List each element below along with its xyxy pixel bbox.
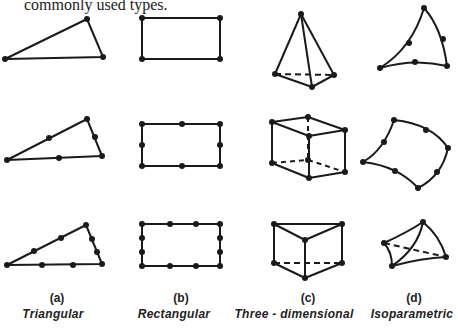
column-a-name: Triangular <box>22 307 83 321</box>
isoparametric-quadrilateral <box>363 120 448 188</box>
column-b-letter: (b) <box>173 291 188 305</box>
hexahedron <box>272 117 345 178</box>
rectangle-linear <box>142 18 220 59</box>
triangle-cubic <box>7 225 102 265</box>
triangular-prism <box>274 224 342 278</box>
isoparametric-tetrahedron <box>384 222 446 266</box>
finite-element-figure <box>0 0 458 328</box>
column-b-name: Rectangular <box>138 307 211 321</box>
column-d-name: Isoparametric <box>371 307 454 321</box>
triangle-quadratic <box>7 119 102 160</box>
column-c-letter: (c) <box>301 291 316 305</box>
rectangle-quadratic <box>142 124 220 166</box>
column-d-letter: (d) <box>406 291 421 305</box>
tetrahedron <box>275 14 334 87</box>
isoparametric-triangle <box>380 8 447 68</box>
column-a-letter: (a) <box>50 291 65 305</box>
rectangle-cubic <box>142 224 220 266</box>
column-c-name: Three - dimensional <box>234 307 353 321</box>
triangle-linear <box>5 19 103 59</box>
